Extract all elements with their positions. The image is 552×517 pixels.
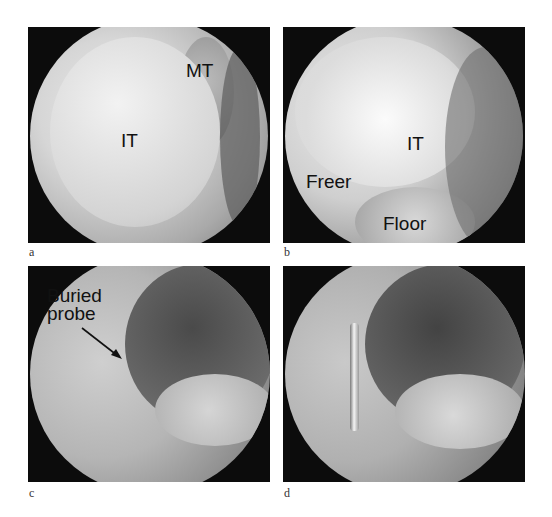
meatus-shadow <box>220 47 260 227</box>
turbinate-shape <box>395 374 525 449</box>
probe-instrument <box>350 323 359 431</box>
panel-letter-b: b <box>284 245 290 260</box>
panel-b-image: IT Freer Floor <box>283 27 525 243</box>
panel-letter-d: d <box>284 486 290 501</box>
shadow-region <box>445 47 523 243</box>
label-floor: Floor <box>383 214 426 233</box>
label-it: IT <box>407 134 424 153</box>
panel-letter-c: c <box>29 486 34 501</box>
panel-a-image: MT IT <box>28 27 270 243</box>
endoscope-view <box>285 27 523 243</box>
label-probe: probe <box>47 304 96 323</box>
panel-c-image: Buried probe <box>28 266 270 482</box>
turbinate-shape <box>155 374 270 446</box>
endoscope-view <box>285 266 525 482</box>
endoscope-view <box>30 27 268 243</box>
label-freer: Freer <box>306 172 351 191</box>
label-it: IT <box>121 131 138 150</box>
panel-d-image <box>283 266 525 482</box>
panel-letter-a: a <box>29 245 34 260</box>
arrow-icon <box>78 324 128 364</box>
label-mt: MT <box>186 61 213 80</box>
